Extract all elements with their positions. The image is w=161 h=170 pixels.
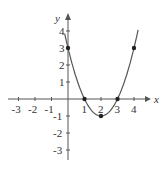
x-tick-label: 2	[98, 103, 104, 115]
chart: xy-3-2-11234-3-2-11234	[0, 0, 161, 170]
y-label: y	[54, 12, 60, 24]
data-point	[66, 46, 70, 50]
y-tick-label: 2	[59, 59, 65, 71]
data-point	[115, 97, 119, 101]
x-tick-label: 4	[131, 103, 137, 115]
y-arrow-icon	[65, 13, 71, 20]
x-tick-label: 3	[115, 103, 121, 115]
data-point	[132, 46, 136, 50]
x-arrow-icon	[145, 96, 151, 102]
y-tick-label: 1	[59, 76, 65, 88]
data-point	[99, 114, 103, 118]
y-tick-label: 4	[59, 25, 65, 37]
y-tick-label: 3	[59, 42, 65, 54]
x-tick-label: -2	[28, 103, 37, 115]
x-tick-label: -3	[12, 103, 22, 115]
plot-svg: xy-3-2-11234-3-2-11234	[0, 0, 161, 170]
data-point	[82, 97, 86, 101]
x-tick-label: 1	[82, 103, 88, 115]
y-tick-label: -3	[53, 144, 63, 156]
y-tick-label: -2	[53, 127, 62, 139]
y-tick-label: -1	[53, 110, 62, 122]
x-label: x	[153, 93, 159, 105]
